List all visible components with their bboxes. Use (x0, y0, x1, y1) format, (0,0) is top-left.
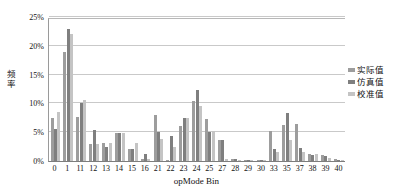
y-axis-tick-label: 5% (33, 129, 44, 137)
legend-item-label: 校准值 (357, 90, 384, 99)
legend: 实际值仿真值校准值 (348, 64, 414, 100)
y-axis-title: 频 率 (4, 70, 18, 89)
x-axis-tick-label: 14 (113, 164, 126, 174)
bar-group (229, 19, 242, 161)
bar (238, 160, 241, 161)
bar-group (216, 19, 229, 161)
y-axis-tick-labels: 0%5%10%15%20%25% (18, 14, 46, 162)
bar (302, 152, 305, 161)
bar-group (62, 19, 75, 161)
x-axis-tick-label: 37 (293, 164, 306, 174)
bar (70, 34, 73, 161)
legend-item-label: 实际值 (357, 66, 384, 75)
bar (109, 143, 112, 161)
x-axis-tick-label: 23 (177, 164, 190, 174)
bar (147, 159, 150, 161)
x-axis-tick-labels: 0111121314151621222324252728293033353738… (48, 164, 345, 174)
bar-group (75, 19, 88, 161)
legend-item-label: 仿真值 (357, 78, 384, 87)
chart-container: 频 率 0%5%10%15%20%25% 0111121314151621222… (0, 0, 415, 194)
x-axis-tick-label: 38 (306, 164, 319, 174)
bar-group (281, 19, 294, 161)
bar (328, 158, 331, 161)
x-axis-tick-label: 25 (203, 164, 216, 174)
bar-group (242, 19, 255, 161)
y-axis-tick-label: 10% (29, 100, 44, 108)
x-axis-tick-label: 24 (190, 164, 203, 174)
x-axis-tick-label: 16 (138, 164, 151, 174)
legend-item[interactable]: 校准值 (348, 88, 414, 100)
y-axis-tick-label: 25% (29, 14, 44, 22)
bar (250, 160, 253, 161)
x-axis-tick-label: 12 (87, 164, 100, 174)
legend-item[interactable]: 仿真值 (348, 76, 414, 88)
bar-group (191, 19, 204, 161)
bar-group (126, 19, 139, 161)
bar (83, 100, 86, 161)
bar-group (139, 19, 152, 161)
x-axis-tick-label: 39 (319, 164, 332, 174)
bar (263, 160, 266, 161)
x-axis-tick-label: 35 (280, 164, 293, 174)
y-axis-tick-label: 0% (33, 158, 44, 166)
y-axis-title-char-2: 率 (4, 80, 18, 90)
bar (135, 143, 138, 161)
bar (57, 112, 60, 161)
legend-item[interactable]: 实际值 (348, 64, 414, 76)
legend-swatch-icon (348, 68, 355, 72)
plot-area (48, 18, 345, 162)
x-axis-tick-label: 13 (100, 164, 113, 174)
bar-group (152, 19, 165, 161)
x-axis-title: opMode Bin (48, 176, 345, 186)
bar (96, 144, 99, 161)
bar (199, 106, 202, 161)
gridline (49, 16, 345, 17)
bar (173, 147, 176, 161)
bar-group (49, 19, 62, 161)
x-axis-tick-label: 1 (61, 164, 74, 174)
bar-group (101, 19, 114, 161)
x-axis-tick-label: 0 (48, 164, 61, 174)
x-axis-tick-label: 33 (267, 164, 280, 174)
x-axis-tick-label: 11 (74, 164, 87, 174)
bar (212, 131, 215, 161)
bar-group (113, 19, 126, 161)
x-axis-tick-label: 29 (242, 164, 255, 174)
x-axis-tick-label: 40 (332, 164, 345, 174)
bar-group (165, 19, 178, 161)
bar-group (307, 19, 320, 161)
bar (276, 152, 279, 161)
bar-group (268, 19, 281, 161)
bar-group (204, 19, 217, 161)
y-axis-tick-label: 15% (29, 72, 44, 80)
x-axis-tick-label: 21 (151, 164, 164, 174)
x-axis-tick-label: 30 (255, 164, 268, 174)
bar (225, 159, 228, 161)
x-axis-tick-label: 28 (229, 164, 242, 174)
x-axis-tick-label: 22 (164, 164, 177, 174)
bar (122, 133, 125, 161)
bar (160, 139, 163, 161)
bar-group (178, 19, 191, 161)
x-axis-tick-label: 15 (125, 164, 138, 174)
legend-swatch-icon (348, 80, 355, 84)
bar (341, 160, 344, 161)
x-axis-tick-label: 27 (216, 164, 229, 174)
bar (289, 140, 292, 161)
bar-group (88, 19, 101, 161)
bar-group (319, 19, 332, 161)
bar (186, 118, 189, 161)
bar (315, 154, 318, 161)
bar-group (294, 19, 307, 161)
bar-group (332, 19, 345, 161)
bar-series-group (49, 19, 345, 161)
bar-group (255, 19, 268, 161)
y-axis-tick-label: 20% (29, 43, 44, 51)
legend-swatch-icon (348, 92, 355, 96)
